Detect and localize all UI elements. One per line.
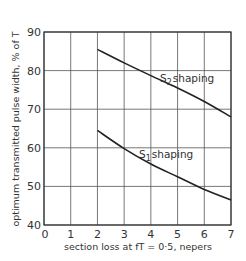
y-tick-labels: 405060708090 xyxy=(27,26,41,232)
x-tick-label: 1 xyxy=(67,228,74,241)
chart: 405060708090 01234567 S2shaping S1shapin… xyxy=(0,0,246,261)
curve-label-s2: S2shaping xyxy=(160,72,214,87)
y-tick-label: 90 xyxy=(27,26,41,39)
grid xyxy=(44,32,231,225)
y-axis-label: optimum transmitted pulse width, % of T xyxy=(10,31,21,226)
x-tick-label: 2 xyxy=(94,228,101,241)
y-tick-label: 40 xyxy=(27,219,41,232)
curve-s1 xyxy=(97,130,231,199)
x-tick-label: 0 xyxy=(42,228,49,241)
y-tick-label: 80 xyxy=(27,65,41,78)
x-tick-label: 6 xyxy=(201,228,208,241)
y-tick-label: 60 xyxy=(27,142,41,155)
x-tick-label: 7 xyxy=(228,228,235,241)
x-tick-labels: 01234567 xyxy=(42,228,235,241)
y-tick-label: 70 xyxy=(27,103,41,116)
x-axis-label: section loss at fT = 0·5, nepers xyxy=(64,241,212,252)
y-tick-label: 50 xyxy=(27,180,41,193)
curve-label-s1: S1shaping xyxy=(139,148,193,163)
x-tick-label: 4 xyxy=(147,228,154,241)
plot-frame xyxy=(44,32,231,225)
x-tick-label: 3 xyxy=(121,228,128,241)
x-tick-label: 5 xyxy=(174,228,181,241)
